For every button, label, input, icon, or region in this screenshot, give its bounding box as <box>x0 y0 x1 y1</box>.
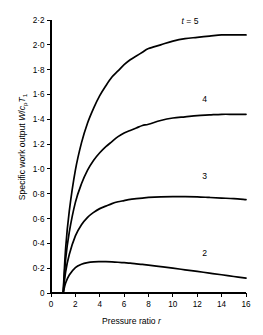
x-tick-label: 14 <box>217 300 227 309</box>
y-tick-label: 1·4 <box>33 115 45 124</box>
y-tick-label: 0·4 <box>33 239 45 248</box>
x-tick-label: 6 <box>122 300 127 309</box>
data-curve <box>63 197 246 293</box>
y-tick-label: 1·6 <box>33 90 45 99</box>
x-tick-label: 12 <box>193 300 203 309</box>
curve-labels: t = 5432 <box>181 16 207 258</box>
axes <box>51 20 246 293</box>
curve-label-3: 3 <box>202 171 207 181</box>
y-axis-symbol-w: W <box>17 113 27 121</box>
y-axis-symbol-c-subscript: p <box>21 103 28 106</box>
y-tick-label: 0·8 <box>33 190 45 199</box>
y-axis-symbol-slash: / <box>17 110 27 112</box>
y-tick-label: 0·6 <box>33 215 45 224</box>
y-axis-symbol-c: c <box>17 106 27 110</box>
y-tick-label: 2·2 <box>33 16 45 25</box>
y-tick-label: 0 <box>40 289 45 298</box>
y-axis-title: Specific work output W/cpT1 <box>15 37 30 257</box>
y-axis-symbol-t: T <box>17 97 27 102</box>
axis-spines <box>51 20 246 293</box>
curve-label-1: t = 5 <box>181 16 198 26</box>
x-tick-label: 4 <box>97 300 102 309</box>
x-axis-title: Pressure ratio r <box>0 316 263 326</box>
curve-label-4: 2 <box>202 248 207 258</box>
x-tick-label: 2 <box>73 300 78 309</box>
specific-work-output-line-chart: 00·20·40·60·81·01·21·41·61·82·02·2024681… <box>0 0 263 335</box>
y-tick-label: 1·0 <box>33 165 45 174</box>
y-tick-label: 1·2 <box>33 140 45 149</box>
curve-label-2: 4 <box>202 94 207 104</box>
y-tick-label: 2·0 <box>33 41 45 50</box>
y-tick-label: 1·8 <box>33 66 45 75</box>
y-axis-title-prefix: Specific work output <box>17 121 27 200</box>
y-axis-symbol-t-subscript: 1 <box>21 94 28 97</box>
y-tick-label: 0·2 <box>33 264 45 273</box>
x-axis-title-symbol: r <box>158 316 161 326</box>
x-tick-label: 8 <box>146 300 151 309</box>
y-axis-title-wrapper: Specific work output W/cpT1 <box>15 37 29 257</box>
data-curve <box>63 262 246 293</box>
x-tick-label: 16 <box>241 300 251 309</box>
x-tick-label: 10 <box>168 300 178 309</box>
x-tick-label: 0 <box>49 300 54 309</box>
chart-figure: 00·20·40·60·81·01·21·41·61·82·02·2024681… <box>0 0 263 335</box>
x-axis-title-text: Pressure ratio <box>102 316 158 326</box>
curve-series <box>63 35 246 293</box>
